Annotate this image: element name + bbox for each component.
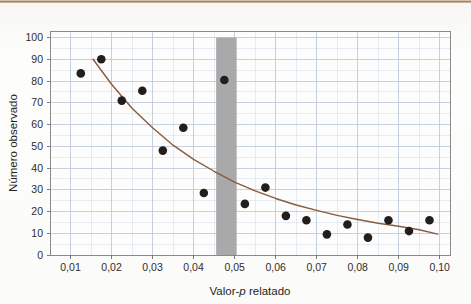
scatter-point xyxy=(425,216,434,225)
y-axis-tick-label: 40 xyxy=(31,162,43,174)
scatter-point xyxy=(302,216,311,225)
y-axis-tick-label: 50 xyxy=(31,140,43,152)
scatter-point xyxy=(282,212,291,221)
y-axis-tick-label: 70 xyxy=(31,96,43,108)
x-axis-title: Valor-p relatado xyxy=(210,285,291,297)
y-axis-title: Número observado xyxy=(7,94,19,192)
scatter-point xyxy=(323,230,332,239)
y-axis-tick-label: 100 xyxy=(25,31,43,43)
scatter-point xyxy=(200,189,209,198)
x-axis-tick-label: 0,06 xyxy=(265,261,286,273)
y-axis-tick-label: 60 xyxy=(31,118,43,130)
scatter-point xyxy=(76,69,85,78)
x-axis-tick-label: 0,05 xyxy=(224,261,245,273)
x-axis-tick-label: 0,07 xyxy=(306,261,327,273)
scatter-point xyxy=(405,227,414,236)
x-axis-tick-label: 0,04 xyxy=(183,261,204,273)
scatter-point xyxy=(179,123,188,132)
scatter-point xyxy=(159,146,168,155)
scatter-point xyxy=(117,96,126,105)
x-axis-tick-label: 0,03 xyxy=(142,261,163,273)
x-axis: 0,010,020,030,040,050,060,070,080,090,10 xyxy=(60,255,450,273)
x-axis-tick-label: 0,08 xyxy=(347,261,368,273)
x-axis-title-prefix: Valor- xyxy=(210,285,240,297)
y-axis: 0102030405060708090100 xyxy=(25,31,50,260)
scatter-point xyxy=(97,55,106,64)
y-axis-tick-label: 20 xyxy=(31,205,43,217)
scatter-point xyxy=(343,220,352,229)
y-axis-tick-label: 10 xyxy=(31,227,43,239)
x-axis-tick-label: 0,01 xyxy=(60,261,81,273)
scatter-point xyxy=(241,200,250,209)
x-axis-tick-label: 0,09 xyxy=(388,261,409,273)
x-axis-tick-label: 0,10 xyxy=(430,261,451,273)
y-axis-tick-label: 80 xyxy=(31,75,43,87)
scatter-point xyxy=(261,183,270,192)
scatter-point xyxy=(138,87,147,96)
page-root: 0102030405060708090100 0,010,020,030,040… xyxy=(0,0,471,304)
x-axis-title-suffix: relatado xyxy=(246,285,291,297)
y-axis-tick-label: 30 xyxy=(31,183,43,195)
scatter-point xyxy=(384,216,393,225)
highlight-band xyxy=(216,38,237,255)
scatter-point xyxy=(364,233,373,242)
scatter-chart-figure: 0102030405060708090100 0,010,020,030,040… xyxy=(0,0,471,304)
chart-canvas: 0102030405060708090100 0,010,020,030,040… xyxy=(0,0,471,304)
highlight-band xyxy=(216,38,237,255)
scatter-point xyxy=(220,76,229,85)
y-axis-tick-label: 90 xyxy=(31,53,43,65)
y-axis-tick-label: 0 xyxy=(37,249,43,261)
x-axis-tick-label: 0,02 xyxy=(101,261,122,273)
